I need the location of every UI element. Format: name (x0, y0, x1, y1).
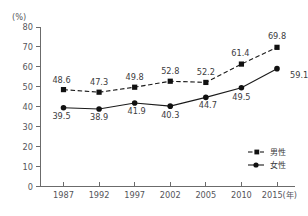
y-axis-tick-label: 40 (23, 102, 33, 112)
data-point-marker (239, 85, 245, 91)
x-axis-tick-label: 2005 (195, 190, 216, 200)
data-point-marker (274, 45, 279, 50)
x-axis-tick-label: 1992 (89, 190, 110, 200)
line-chart: (%) 01020304050607080 198719921997200220… (0, 0, 308, 216)
x-axis-tick-label: 2015(年) (262, 190, 297, 200)
y-axis-tick-label: 50 (23, 82, 33, 92)
y-axis-tick-label: 0 (28, 182, 33, 192)
legend-label-female: 女性 (270, 160, 286, 170)
data-point-label: 48.6 (52, 75, 70, 85)
data-point-marker (61, 87, 66, 92)
data-point-marker (203, 80, 208, 85)
data-point-marker (167, 103, 173, 109)
data-point-label: 69.8 (268, 31, 286, 41)
data-point-marker (96, 90, 101, 95)
x-axis-tick-label: 1987 (53, 190, 74, 200)
data-point-label: 61.4 (231, 48, 249, 58)
data-point-label: 52.8 (161, 66, 179, 76)
data-point-marker (132, 100, 138, 106)
data-point-marker (203, 95, 209, 101)
legend-marker-square (254, 150, 259, 155)
y-axis-tick-label: 70 (23, 42, 33, 52)
legend-marker-circle (253, 162, 258, 167)
y-axis-tick-label: 80 (23, 22, 33, 32)
chart-canvas: (%) 01020304050607080 198719921997200220… (0, 0, 308, 216)
data-point-label: 49.8 (126, 72, 144, 82)
y-axis-tick-label: 60 (23, 62, 33, 72)
x-axis: 1987199219972002200520102015(年) (53, 182, 297, 200)
y-axis-tick-label: 10 (23, 162, 33, 172)
x-axis-tick-label: 1997 (124, 190, 145, 200)
y-axis: 01020304050607080 (23, 22, 41, 192)
y-axis-tick-label: 20 (23, 142, 33, 152)
legend-label-male: 男性 (270, 147, 286, 157)
data-point-label: 38.9 (90, 112, 108, 122)
data-point-marker (274, 66, 280, 72)
data-point-label: 40.3 (161, 110, 179, 120)
data-point-label: 49.5 (232, 92, 250, 102)
data-point-label: 52.2 (197, 67, 215, 77)
x-axis-tick-label: 2002 (160, 190, 181, 200)
data-point-marker (239, 61, 244, 66)
data-point-label: 44.7 (199, 100, 217, 110)
y-axis-unit-label: (%) (12, 12, 26, 22)
data-point-label: 47.3 (90, 77, 108, 87)
x-axis-tick-label: 2010 (231, 190, 252, 200)
data-point-marker (61, 105, 67, 111)
data-point-marker (168, 79, 173, 84)
data-point-label: 41.9 (128, 106, 146, 116)
data-point-marker (96, 106, 102, 112)
chart-legend: 男性女性 (248, 147, 286, 170)
y-axis-tick-label: 30 (23, 122, 33, 132)
data-point-label: 39.5 (52, 111, 70, 121)
data-point-marker (132, 85, 137, 90)
data-point-label: 59.1 (290, 70, 308, 80)
